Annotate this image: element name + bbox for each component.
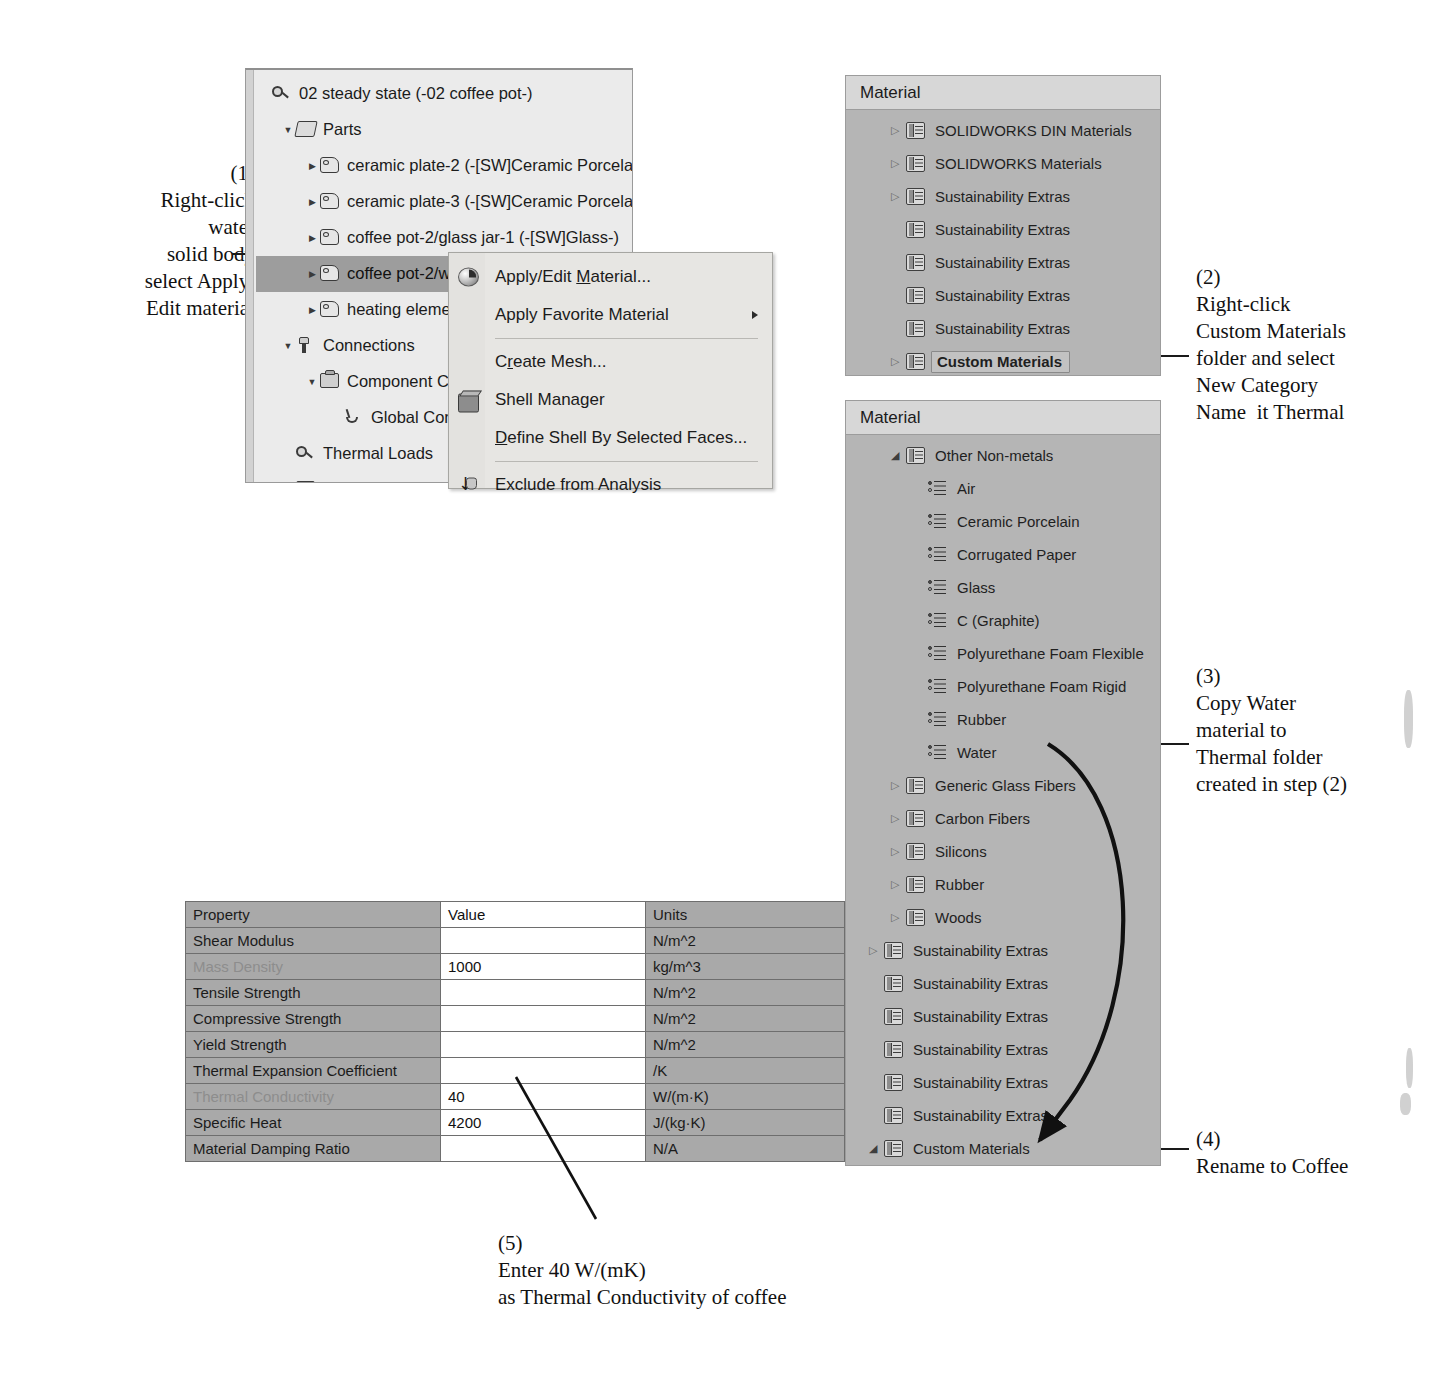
annotation-line: as Thermal Conductivity of coffee (498, 1284, 918, 1311)
chevron-right-icon[interactable]: ▶ (304, 306, 320, 315)
material-tree-row[interactable]: Sustainability Extras (846, 279, 1160, 312)
feature-tree-scrollbar[interactable] (246, 70, 254, 482)
table-row[interactable]: Thermal Expansion Coefficient/K (186, 1058, 845, 1084)
material-tree-row[interactable]: C (Graphite) (846, 604, 1160, 637)
annotation-step-4: (4)Rename to Coffee (1196, 1126, 1434, 1180)
context-menu[interactable]: Apply/Edit Material...Apply Favorite Mat… (448, 252, 773, 489)
property-value-cell[interactable] (441, 1136, 646, 1162)
property-value-cell[interactable]: 4200 (441, 1110, 646, 1136)
material-tree-rows-bottom[interactable]: ◢Other Non-metalsAirCeramic PorcelainCor… (846, 435, 1160, 1166)
material-tree-row[interactable]: Polyurethane Foam Flexible (846, 637, 1160, 670)
property-value-cell[interactable] (441, 1032, 646, 1058)
chevron-right-icon[interactable]: ▶ (304, 234, 320, 243)
material-tree-row[interactable]: Sustainability Extras (846, 1099, 1160, 1132)
material-tree-row[interactable]: Glass (846, 571, 1160, 604)
table-row[interactable]: Mass Density1000kg/m^3 (186, 954, 845, 980)
property-value-cell[interactable] (441, 1006, 646, 1032)
feature-tree-row[interactable]: 02 steady state (-02 coffee pot-) (256, 76, 632, 112)
context-menu-item[interactable]: Shell Manager (449, 381, 772, 419)
table-row[interactable]: Yield StrengthN/m^2 (186, 1032, 845, 1058)
material-leaf-icon (928, 612, 950, 630)
triangle-right-icon[interactable]: ▷ (884, 813, 906, 824)
material-tree-rows-top[interactable]: ▷SOLIDWORKS DIN Materials▷SOLIDWORKS Mat… (846, 110, 1160, 376)
material-tree-row[interactable]: Water (846, 736, 1160, 769)
material-tree-panel-bottom[interactable]: Material ◢Other Non-metalsAirCeramic Por… (845, 400, 1161, 1166)
context-menu-item[interactable]: Define Shell By Selected Faces... (449, 419, 772, 457)
triangle-right-icon[interactable]: ▷ (884, 191, 906, 202)
material-tree-row[interactable]: ▷Woods (846, 901, 1160, 934)
triangle-right-icon[interactable]: ▷ (884, 125, 906, 136)
material-tree-row[interactable]: Ceramic Porcelain (846, 505, 1160, 538)
table-row[interactable]: Tensile StrengthN/m^2 (186, 980, 845, 1006)
table-row[interactable]: Material Damping RatioN/A (186, 1136, 845, 1162)
annotation-line: material to (1196, 717, 1434, 744)
feature-tree-row[interactable]: ▼Parts (256, 112, 632, 148)
table-header-row: Property Value Units (186, 902, 845, 928)
material-property-table[interactable]: Property Value Units Shear ModulusN/m^2M… (185, 901, 845, 1162)
category-folder-icon (906, 353, 928, 371)
material-tree-row[interactable]: Rubber (846, 703, 1160, 736)
property-value-cell[interactable] (441, 928, 646, 954)
material-tree-row[interactable]: Sustainability Extras (846, 967, 1160, 1000)
feature-tree-row[interactable]: ▶ceramic plate-2 (-[SW]Ceramic Porcelain (256, 148, 632, 184)
material-tree-row[interactable]: ◢Thermal (846, 1165, 1160, 1166)
table-row[interactable]: Compressive StrengthN/m^2 (186, 1006, 845, 1032)
material-tree-row[interactable]: Sustainability Extras (846, 312, 1160, 345)
annotation-number: (3) (1196, 663, 1434, 690)
material-tree-row[interactable]: Sustainability Extras (846, 1000, 1160, 1033)
material-tree-row[interactable]: ◢Custom Materials (846, 1132, 1160, 1165)
feature-tree-row[interactable]: ▶coffee pot-2/glass jar-1 (-[SW]Glass-) (256, 220, 632, 256)
triangle-right-icon[interactable]: ▷ (862, 945, 884, 956)
material-tree-row[interactable]: ▷Sustainability Extras (846, 934, 1160, 967)
triangle-right-icon[interactable]: ▷ (884, 912, 906, 923)
property-value-cell[interactable] (441, 980, 646, 1006)
context-menu-item[interactable]: Exclude from Analysis (449, 466, 772, 504)
chevron-down-icon[interactable]: ▼ (304, 378, 320, 387)
triangle-right-icon[interactable]: ▷ (884, 879, 906, 890)
annotation-line: solid body (30, 241, 255, 268)
property-units-cell: N/m^2 (646, 928, 845, 954)
material-tree-row[interactable]: Sustainability Extras (846, 1066, 1160, 1099)
feature-tree-row-label: coffee pot-2/wa (347, 264, 460, 284)
triangle-down-icon[interactable]: ◢ (862, 1143, 884, 1154)
material-tree-row[interactable]: Polyurethane Foam Rigid (846, 670, 1160, 703)
chevron-down-icon[interactable]: ▼ (280, 342, 296, 351)
chevron-right-icon[interactable]: ▶ (304, 270, 320, 279)
triangle-right-icon[interactable]: ▷ (884, 158, 906, 169)
feature-tree-row[interactable]: ▶ceramic plate-3 (-[SW]Ceramic Porcelain (256, 184, 632, 220)
material-tree-row[interactable]: Sustainability Extras (846, 1033, 1160, 1066)
material-tree-row[interactable]: ▷Custom Materials (846, 345, 1160, 376)
material-tree-row[interactable]: ▷Rubber (846, 868, 1160, 901)
material-tree-row[interactable]: ▷SOLIDWORKS Materials (846, 147, 1160, 180)
material-tree-row[interactable]: Air (846, 472, 1160, 505)
material-tree-row[interactable]: Sustainability Extras (846, 213, 1160, 246)
triangle-right-icon[interactable]: ▷ (884, 356, 906, 367)
material-tree-row[interactable]: ▷Silicons (846, 835, 1160, 868)
chevron-right-icon[interactable]: ▶ (304, 198, 320, 207)
chevron-down-icon[interactable]: ▼ (280, 126, 296, 135)
material-tree-panel-top[interactable]: Material ▷SOLIDWORKS DIN Materials▷SOLID… (845, 75, 1161, 376)
material-tree-row[interactable]: Corrugated Paper (846, 538, 1160, 571)
material-tree-row[interactable]: ▷Sustainability Extras (846, 180, 1160, 213)
material-tree-row[interactable]: ◢Other Non-metals (846, 439, 1160, 472)
chevron-right-icon[interactable]: ▶ (304, 162, 320, 171)
context-menu-item[interactable]: Apply/Edit Material... (449, 258, 772, 296)
material-tree-row[interactable]: ▷Carbon Fibers (846, 802, 1160, 835)
property-value-cell[interactable]: 1000 (441, 954, 646, 980)
property-value-cell[interactable] (441, 1058, 646, 1084)
table-row[interactable]: Shear ModulusN/m^2 (186, 928, 845, 954)
triangle-right-icon[interactable]: ▷ (884, 780, 906, 791)
context-menu-item-label: Exclude from Analysis (495, 475, 661, 495)
context-menu-item[interactable]: Apply Favorite Material (449, 296, 772, 334)
triangle-right-icon[interactable]: ▷ (884, 846, 906, 857)
material-tree-row[interactable]: Sustainability Extras (846, 246, 1160, 279)
triangle-down-icon[interactable]: ◢ (884, 450, 906, 461)
material-tree-row[interactable]: ▷SOLIDWORKS DIN Materials (846, 114, 1160, 147)
property-value-cell[interactable]: 40 (441, 1084, 646, 1110)
table-row[interactable]: Specific Heat4200J/(kg·K) (186, 1110, 845, 1136)
context-menu-item[interactable]: Create Mesh... (449, 343, 772, 381)
material-tree-row[interactable]: ▷Generic Glass Fibers (846, 769, 1160, 802)
context-menu-item-label: Apply/Edit Material... (495, 267, 651, 287)
table-row[interactable]: Thermal Conductivity40W/(m·K) (186, 1084, 845, 1110)
context-menu-item-label: Apply Favorite Material (495, 305, 669, 325)
